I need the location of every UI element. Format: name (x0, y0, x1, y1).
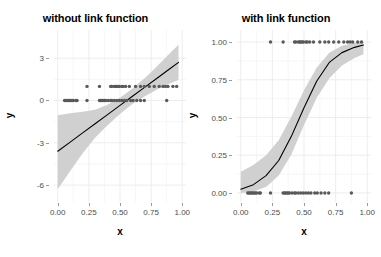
y-axis-right: 1.000.750.500.250.00 (202, 30, 232, 202)
figure-canvas: without link function 30-3-6 0.000.250.5… (0, 0, 381, 257)
x-tick-mark (272, 203, 273, 206)
y-tick-label: 0 (40, 96, 44, 105)
x-axis-right: 0.000.250.500.751.00 (237, 203, 371, 223)
y-tick-mark (46, 58, 49, 59)
panel-title-right: with link function (191, 12, 381, 24)
y-tick-mark (229, 42, 232, 43)
x-axis-left: 0.000.250.500.751.00 (54, 203, 186, 223)
y-tick-label: 0.75 (211, 75, 227, 84)
data-points-left (54, 30, 186, 202)
y-axis-title-right: y (187, 106, 198, 126)
plot-area-left (54, 30, 186, 202)
x-tick-mark (89, 203, 90, 206)
x-tick-label: 0.75 (143, 208, 159, 217)
x-tick-mark (58, 203, 59, 206)
x-tick-label: 0.50 (112, 208, 128, 217)
x-tick-label: 1.00 (174, 208, 190, 217)
y-tick-mark (46, 143, 49, 144)
x-tick-label: 0.25 (265, 208, 281, 217)
y-tick-label: 0.50 (211, 113, 227, 122)
x-tick-mark (304, 203, 305, 206)
y-tick-label: 3 (40, 54, 44, 63)
x-tick-mark (241, 203, 242, 206)
x-tick-label: 0.50 (296, 208, 312, 217)
panel-title-left: without link function (0, 12, 191, 24)
y-tick-label: 1.00 (211, 38, 227, 47)
y-axis-left: 30-3-6 (19, 30, 49, 202)
x-axis-title-right: x (237, 226, 371, 237)
y-tick-mark (229, 80, 232, 81)
y-tick-mark (46, 100, 49, 101)
x-tick-mark (151, 203, 152, 206)
y-axis-title-left: y (4, 106, 15, 126)
y-tick-label: -6 (37, 181, 44, 190)
x-tick-mark (336, 203, 337, 206)
x-tick-label: 0.00 (50, 208, 66, 217)
y-tick-label: -3 (37, 138, 44, 147)
y-tick-label: 0.00 (211, 188, 227, 197)
panel-without-link-function: without link function 30-3-6 0.000.250.5… (0, 0, 191, 257)
x-tick-mark (182, 203, 183, 206)
x-axis-title-left: x (54, 226, 186, 237)
x-tick-label: 1.00 (359, 208, 375, 217)
x-tick-mark (120, 203, 121, 206)
y-tick-mark (229, 155, 232, 156)
y-tick-mark (46, 185, 49, 186)
x-tick-mark (367, 203, 368, 206)
x-tick-label: 0.25 (81, 208, 97, 217)
x-tick-label: 0.00 (233, 208, 249, 217)
y-tick-label: 0.25 (211, 151, 227, 160)
data-points-right (237, 30, 371, 202)
y-tick-mark (229, 193, 232, 194)
y-tick-mark (229, 118, 232, 119)
x-tick-label: 0.75 (328, 208, 344, 217)
plot-area-right (237, 30, 371, 202)
